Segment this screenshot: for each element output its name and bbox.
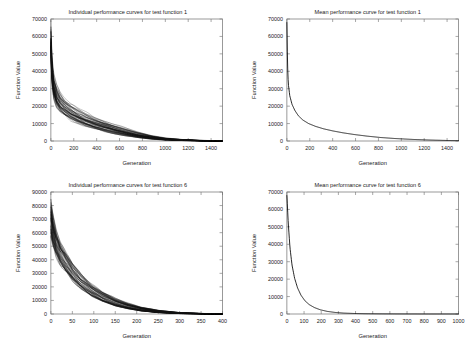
svg-text:20000: 20000 (267, 276, 282, 282)
x-axis-label: Generation (358, 333, 387, 339)
axes-bottom-right: 0100200300400500600700800900100001000020… (267, 189, 464, 324)
svg-text:50000: 50000 (32, 51, 47, 57)
svg-text:150: 150 (111, 318, 120, 324)
svg-text:600: 600 (385, 318, 394, 324)
svg-text:200: 200 (132, 318, 141, 324)
axes-top-right: 0200400600800100012001400010000200003000… (267, 16, 458, 151)
svg-text:0: 0 (44, 138, 47, 144)
svg-text:40000: 40000 (267, 68, 282, 74)
svg-text:30000: 30000 (267, 86, 282, 92)
svg-text:600: 600 (115, 145, 124, 151)
x-axis-label: Generation (358, 160, 387, 166)
svg-text:30000: 30000 (267, 259, 282, 265)
svg-text:1400: 1400 (441, 145, 453, 151)
svg-text:30000: 30000 (32, 86, 47, 92)
y-axis-label: Function Value (15, 61, 21, 99)
svg-text:20000: 20000 (32, 284, 47, 290)
individual-curves (51, 199, 223, 314)
svg-text:1000: 1000 (159, 145, 171, 151)
svg-text:350: 350 (197, 318, 206, 324)
svg-text:10000: 10000 (32, 297, 47, 303)
svg-text:1400: 1400 (205, 145, 217, 151)
svg-text:80000: 80000 (32, 203, 47, 209)
svg-text:50: 50 (69, 318, 75, 324)
svg-text:400: 400 (218, 318, 227, 324)
svg-text:300: 300 (175, 318, 184, 324)
svg-text:70000: 70000 (32, 216, 47, 222)
panel-top-right: Mean performance curve for test function… (236, 0, 471, 173)
svg-text:60000: 60000 (32, 230, 47, 236)
svg-text:40000: 40000 (32, 257, 47, 263)
svg-text:200: 200 (69, 145, 78, 151)
panel-bottom-right: Mean performance curve for test function… (236, 173, 471, 346)
x-axis-label: Generation (122, 333, 151, 339)
svg-text:10000: 10000 (32, 121, 47, 127)
panel-title: Individual performance curves for test f… (68, 182, 187, 188)
x-axis-label: Generation (122, 160, 151, 166)
panel-title: Mean performance curve for test function… (314, 9, 420, 15)
panel-title: Mean performance curve for test function… (314, 182, 420, 188)
svg-text:30000: 30000 (32, 270, 47, 276)
svg-text:0: 0 (285, 145, 288, 151)
y-axis-label: Function Value (15, 234, 21, 272)
svg-text:40000: 40000 (267, 241, 282, 247)
svg-text:1000: 1000 (395, 145, 407, 151)
svg-text:400: 400 (328, 145, 337, 151)
svg-text:600: 600 (351, 145, 360, 151)
svg-text:800: 800 (373, 145, 382, 151)
svg-text:1200: 1200 (182, 145, 194, 151)
svg-text:50000: 50000 (267, 51, 282, 57)
svg-text:0: 0 (49, 145, 52, 151)
svg-text:40000: 40000 (32, 68, 47, 74)
svg-text:400: 400 (92, 145, 101, 151)
svg-text:800: 800 (419, 318, 428, 324)
svg-text:0: 0 (44, 311, 47, 317)
svg-text:90000: 90000 (32, 189, 47, 195)
individual-curves (51, 20, 223, 141)
mean-curve (286, 195, 458, 313)
svg-text:0: 0 (49, 318, 52, 324)
svg-text:900: 900 (436, 318, 445, 324)
mean-curve (286, 22, 458, 140)
svg-text:10000: 10000 (267, 294, 282, 300)
svg-text:200: 200 (316, 318, 325, 324)
svg-text:20000: 20000 (32, 103, 47, 109)
svg-text:500: 500 (368, 318, 377, 324)
y-axis-label: Function Value (250, 61, 256, 99)
panel-top-left: Individual performance curves for test f… (0, 0, 236, 173)
panel-bottom-left: Individual performance curves for test f… (0, 173, 236, 346)
svg-text:800: 800 (138, 145, 147, 151)
svg-text:250: 250 (154, 318, 163, 324)
svg-text:70000: 70000 (267, 189, 282, 195)
svg-text:50000: 50000 (267, 224, 282, 230)
svg-text:100: 100 (89, 318, 98, 324)
svg-text:70000: 70000 (32, 16, 47, 22)
svg-text:300: 300 (333, 318, 342, 324)
svg-text:20000: 20000 (267, 103, 282, 109)
svg-text:70000: 70000 (267, 16, 282, 22)
svg-text:0: 0 (285, 318, 288, 324)
svg-text:60000: 60000 (267, 206, 282, 212)
svg-text:60000: 60000 (267, 33, 282, 39)
svg-text:1200: 1200 (418, 145, 430, 151)
svg-text:700: 700 (402, 318, 411, 324)
svg-text:0: 0 (279, 311, 282, 317)
figure-grid: Individual performance curves for test f… (0, 0, 471, 346)
y-axis-label: Function Value (250, 234, 256, 272)
svg-text:400: 400 (351, 318, 360, 324)
svg-text:60000: 60000 (32, 33, 47, 39)
svg-text:200: 200 (305, 145, 314, 151)
svg-text:0: 0 (279, 138, 282, 144)
svg-text:50000: 50000 (32, 243, 47, 249)
panel-title: Individual performance curves for test f… (68, 9, 187, 15)
svg-text:1000: 1000 (452, 318, 464, 324)
svg-text:100: 100 (299, 318, 308, 324)
svg-text:10000: 10000 (267, 121, 282, 127)
